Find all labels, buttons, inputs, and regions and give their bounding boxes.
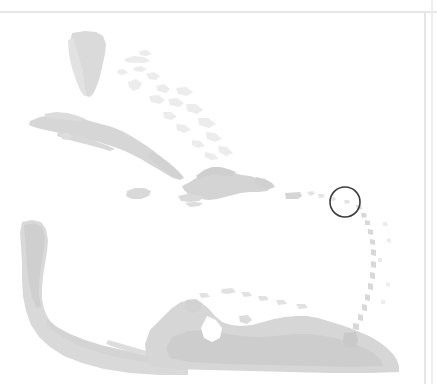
locator-map-figure [0,0,437,384]
page-edge-top [0,11,437,13]
page-edge-right-outer [431,0,433,384]
page-edge-right [424,11,426,384]
highlight-circle-annotation [330,187,360,217]
annotation-layer [0,0,437,384]
